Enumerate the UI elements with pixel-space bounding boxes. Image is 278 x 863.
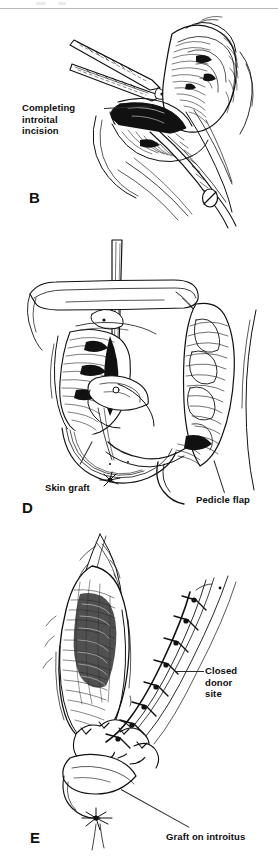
label-completing-introital-incision: Completing introital incision: [22, 102, 108, 137]
figure-panel-b: Completing introital incision B: [0, 12, 278, 230]
leader-line-closed-donor-site: [176, 671, 204, 672]
figure-letter-b: B: [29, 190, 40, 205]
figure-letter-d: D: [22, 500, 33, 515]
figure-panel-e: Closed donor site Graft on introitus E: [0, 520, 278, 863]
page-top-rule: [0, 8, 278, 9]
label-skin-graft: Skin graft: [45, 482, 125, 494]
label-closed-donor-site: Closed donor site: [205, 665, 271, 700]
figure-panel-d: Skin graft Pedicle flap D: [0, 232, 278, 520]
panel-d-artwork: [0, 232, 278, 520]
label-graft-on-introitus: Graft on introitus: [166, 831, 278, 843]
scan-artifact-2: [58, 2, 66, 5]
scan-artifact-1: [36, 2, 46, 5]
label-pedicle-flap: Pedicle flap: [196, 494, 276, 506]
illustration-plate: Completing introital incision B: [0, 0, 278, 863]
figure-letter-e: E: [30, 830, 40, 845]
